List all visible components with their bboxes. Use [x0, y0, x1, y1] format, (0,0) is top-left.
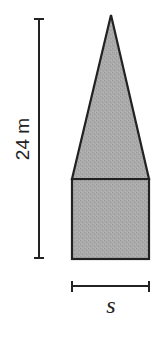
width-dimension: s [72, 281, 149, 318]
composite-shape-diagram: 24 m s [0, 0, 162, 338]
rectangle-base [72, 179, 149, 259]
height-label: 24 m [12, 118, 33, 160]
triangle-top [72, 15, 149, 179]
width-label: s [106, 292, 115, 318]
height-dimension: 24 m [12, 19, 44, 258]
